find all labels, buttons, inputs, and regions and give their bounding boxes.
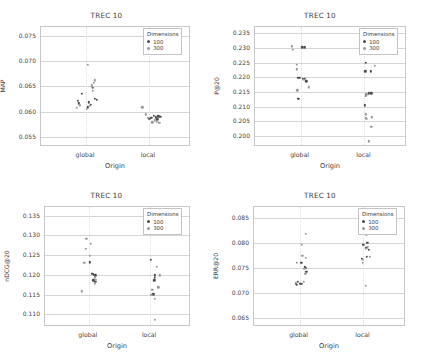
data-point bbox=[297, 98, 299, 100]
y-tick-label: 0.120 bbox=[0, 270, 40, 277]
y-tick-label: 0.215 bbox=[213, 87, 250, 94]
legend-item[interactable]: 100 bbox=[147, 219, 178, 225]
data-point bbox=[153, 279, 155, 281]
data-point bbox=[85, 238, 87, 240]
data-point bbox=[296, 262, 298, 264]
legend-item[interactable]: 300 bbox=[147, 225, 178, 231]
data-point bbox=[301, 244, 303, 246]
y-tick-label: 0.205 bbox=[213, 117, 250, 124]
gridline-y bbox=[255, 92, 405, 93]
y-tick-label: 0.075 bbox=[213, 264, 249, 271]
x-tick-label: local bbox=[355, 331, 369, 338]
legend-item-label: 100 bbox=[369, 39, 379, 45]
data-point bbox=[304, 232, 306, 234]
legend[interactable]: Dimensions100300 bbox=[143, 28, 182, 55]
data-point bbox=[368, 256, 370, 258]
y-axis-label: nDCG@20 bbox=[3, 236, 10, 296]
x-tick-label: global bbox=[78, 331, 97, 338]
y-tick-label: 0.060 bbox=[0, 107, 36, 114]
x-tick-label: global bbox=[289, 331, 308, 338]
x-axis-label: Origin bbox=[40, 162, 190, 170]
legend-marker-icon bbox=[362, 220, 365, 223]
gridline-y bbox=[254, 293, 404, 294]
legend-title: Dimensions bbox=[147, 211, 178, 217]
y-tick-label: 0.115 bbox=[0, 290, 40, 297]
gridline-y bbox=[254, 268, 404, 269]
panel-title: TREC 10 bbox=[213, 11, 427, 20]
legend[interactable]: Dimensions100300 bbox=[359, 28, 398, 55]
gridline-y bbox=[45, 255, 189, 256]
y-tick-label: 0.225 bbox=[213, 58, 250, 65]
y-tick-label: 0.085 bbox=[213, 214, 249, 221]
y-tick-label: 0.235 bbox=[213, 29, 250, 36]
x-tick-label: local bbox=[142, 331, 156, 338]
legend-title: Dimensions bbox=[147, 31, 178, 37]
data-point bbox=[153, 297, 155, 299]
data-point bbox=[145, 113, 147, 115]
legend-item[interactable]: 100 bbox=[363, 39, 394, 45]
legend-item[interactable]: 100 bbox=[147, 39, 178, 45]
y-tick-label: 0.210 bbox=[213, 102, 250, 109]
gridline-x bbox=[301, 27, 302, 145]
legend-marker-icon bbox=[147, 47, 150, 50]
legend-marker-icon bbox=[362, 227, 365, 230]
x-tick-label: global bbox=[290, 151, 309, 158]
panel-map: TREC 10 MAP Origin 0.0550.0600.0650.0700… bbox=[0, 0, 213, 180]
gridline-x bbox=[300, 207, 301, 325]
gridline-y bbox=[41, 86, 189, 87]
data-point bbox=[371, 116, 373, 118]
legend-item-label: 100 bbox=[368, 219, 378, 225]
legend-title: Dimensions bbox=[363, 31, 394, 37]
data-point bbox=[80, 92, 82, 94]
panel-title: TREC 10 bbox=[0, 11, 213, 20]
gridline-y bbox=[255, 77, 405, 78]
gridline-y bbox=[255, 63, 405, 64]
x-tick-label: global bbox=[76, 151, 95, 158]
data-point bbox=[75, 106, 77, 108]
legend[interactable]: Dimensions100300 bbox=[143, 208, 182, 235]
data-point bbox=[374, 64, 376, 66]
gridline-y bbox=[255, 121, 405, 122]
data-point bbox=[141, 106, 143, 108]
panel-p20: TREC 10 P@20 Origin 0.2000.2050.2100.215… bbox=[213, 0, 427, 180]
data-point bbox=[370, 125, 372, 127]
legend-item-label: 100 bbox=[153, 219, 163, 225]
data-point bbox=[153, 319, 155, 321]
gridline-y bbox=[254, 318, 404, 319]
data-point bbox=[91, 90, 93, 92]
x-axis-label: Origin bbox=[253, 342, 405, 350]
legend-item[interactable]: 300 bbox=[147, 45, 178, 51]
data-point bbox=[368, 140, 370, 142]
legend-marker-icon bbox=[363, 47, 366, 50]
y-tick-label: 0.135 bbox=[0, 211, 40, 218]
legend-marker-icon bbox=[363, 40, 366, 43]
gridline-y bbox=[254, 243, 404, 244]
y-tick-label: 0.220 bbox=[213, 73, 250, 80]
legend-marker-icon bbox=[147, 40, 150, 43]
data-point bbox=[93, 82, 95, 84]
legend-item[interactable]: 100 bbox=[362, 219, 393, 225]
x-tick-label: local bbox=[141, 151, 155, 158]
gridline-y bbox=[41, 112, 189, 113]
data-point bbox=[96, 99, 98, 101]
legend-item[interactable]: 300 bbox=[363, 45, 394, 51]
gridline-y bbox=[41, 61, 189, 62]
data-point bbox=[156, 265, 158, 267]
data-point bbox=[295, 284, 297, 286]
x-tick-label: local bbox=[356, 151, 370, 158]
data-point bbox=[369, 70, 371, 72]
legend-marker-icon bbox=[147, 227, 150, 230]
legend[interactable]: Dimensions100300 bbox=[358, 208, 397, 235]
y-tick-label: 0.070 bbox=[0, 57, 36, 64]
data-point bbox=[79, 104, 81, 106]
legend-item[interactable]: 300 bbox=[362, 225, 393, 231]
x-axis-label: Origin bbox=[44, 342, 190, 350]
data-point bbox=[305, 80, 307, 82]
y-tick-label: 0.055 bbox=[0, 132, 36, 139]
data-point bbox=[364, 284, 366, 286]
gridline-y bbox=[255, 136, 405, 137]
legend-item-label: 300 bbox=[369, 45, 379, 51]
panel-err20: TREC 10 ERR@20 Origin 0.0650.0700.0750.0… bbox=[213, 180, 427, 361]
y-tick-label: 0.200 bbox=[213, 131, 250, 138]
data-point bbox=[301, 283, 303, 285]
